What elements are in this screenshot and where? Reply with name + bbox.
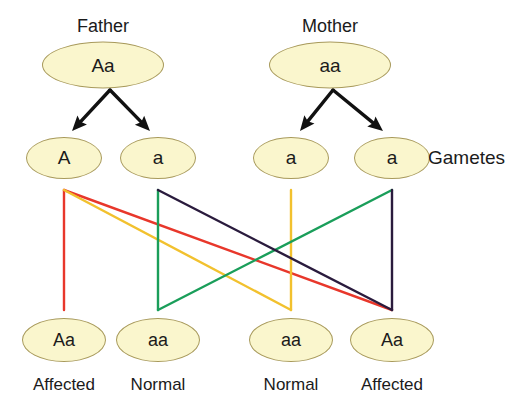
inheritance-diagram: FatherAaMotheraaAaaaGametesAaAffectedaaN…: [0, 0, 524, 404]
mother-gamete-a-2: a: [354, 137, 430, 179]
offspring-3-node: aa: [249, 318, 333, 362]
offspring-1-node: Aa: [22, 318, 106, 362]
offspring-3-phenotype: Normal: [264, 375, 319, 395]
mother-node: aa: [269, 42, 391, 89]
father-meiosis-arrows-left: [72, 90, 110, 131]
offspring-2-node: aa: [116, 318, 200, 362]
father-gamete-A: A: [26, 137, 102, 179]
offspring-4-node: Aa: [350, 318, 434, 362]
offspring-4-phenotype: Affected: [361, 375, 423, 395]
father-meiosis-arrows-right: [110, 90, 150, 131]
mother-meiosis-arrows-right: [333, 90, 383, 131]
mother-title: Mother: [302, 16, 358, 37]
mother-gamete-a-1: a: [253, 137, 329, 179]
offspring-2-phenotype: Normal: [131, 375, 186, 395]
mother-meiosis-arrows-left: [300, 90, 333, 131]
father-title: Father: [77, 16, 129, 37]
father-node: Aa: [42, 42, 164, 89]
father-gamete-a: a: [120, 137, 196, 179]
gametes-row-label: Gametes: [428, 147, 505, 169]
offspring-1-phenotype: Affected: [33, 375, 95, 395]
